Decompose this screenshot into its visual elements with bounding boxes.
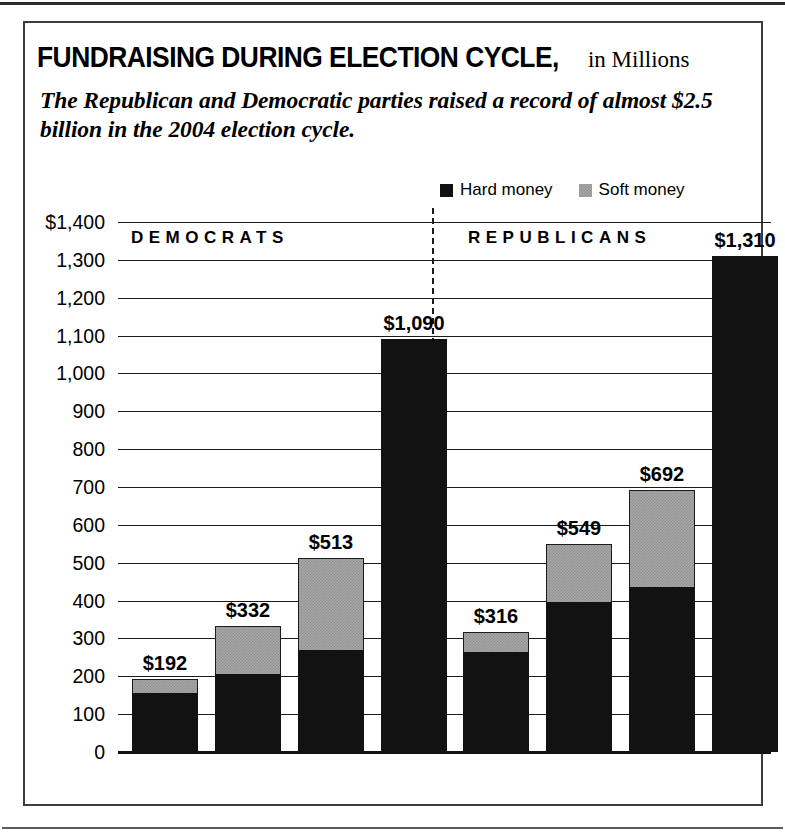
y-axis-tick-label: 300 — [0, 629, 105, 649]
bar — [298, 558, 364, 752]
page-rule-bottom — [2, 827, 783, 829]
y-axis-tick-label: $1,400 — [0, 213, 105, 233]
legend-label-hard-money: Hard money — [460, 180, 553, 200]
bar-value-label: $316 — [436, 605, 556, 628]
bar — [546, 544, 612, 752]
page-title-sub: in Millions — [588, 47, 690, 73]
bar — [629, 490, 695, 752]
page-title: FUNDRAISING DURING ELECTION CYCLE,in Mil… — [37, 40, 737, 74]
square-swatch-icon — [440, 184, 453, 197]
legend-item-soft-money: Soft money — [579, 180, 685, 200]
bar-value-label: $513 — [271, 531, 391, 554]
bar-segment-hard-money — [712, 256, 778, 752]
bar — [215, 626, 281, 752]
y-axis-tick-label: 1,300 — [0, 251, 105, 271]
bar-segment-soft-money — [215, 626, 281, 674]
y-axis-tick-label: 100 — [0, 705, 105, 725]
y-axis-tick-label: 700 — [0, 478, 105, 498]
y-axis-tick-label: 900 — [0, 402, 105, 422]
y-axis-tick-label: 200 — [0, 667, 105, 687]
bar-segment-hard-money — [298, 650, 364, 752]
bar-value-label: $1,310 — [685, 229, 785, 252]
bar-segment-hard-money — [132, 693, 198, 752]
legend-item-hard-money: Hard money — [440, 180, 553, 200]
bar-segment-soft-money — [546, 544, 612, 602]
bar-segment-soft-money — [298, 558, 364, 650]
gridline — [118, 298, 771, 299]
bar-value-label: $332 — [188, 599, 308, 622]
bar-segment-hard-money — [546, 602, 612, 752]
bar-segment-soft-money — [132, 679, 198, 693]
y-axis-tick-label: 1,200 — [0, 289, 105, 309]
y-axis-tick-label: 1,100 — [0, 327, 105, 347]
chart-subtitle: The Republican and Democratic parties ra… — [40, 86, 720, 144]
square-swatch-icon — [579, 184, 592, 197]
bar-value-label: $549 — [519, 517, 639, 540]
bar-value-label: $1,090 — [354, 312, 474, 335]
y-axis-tick-label: 600 — [0, 516, 105, 536]
bar-value-label: $692 — [602, 463, 722, 486]
bar-value-label: $192 — [105, 652, 225, 675]
y-axis-tick-label: 400 — [0, 592, 105, 612]
bar-segment-hard-money — [381, 339, 447, 752]
bar-segment-soft-money — [629, 490, 695, 587]
bar — [132, 679, 198, 752]
y-axis-tick-label: 0 — [0, 743, 105, 763]
page-title-main: FUNDRAISING DURING ELECTION CYCLE, — [37, 40, 559, 74]
legend-label-soft-money: Soft money — [599, 180, 685, 200]
gridline — [118, 260, 771, 261]
y-axis-tick-label: 500 — [0, 554, 105, 574]
page-rule-top — [0, 2, 785, 5]
gridline — [118, 222, 771, 223]
chart-legend: Hard money Soft money — [440, 180, 685, 200]
bar — [712, 256, 778, 752]
chart-plot-area: $1,4001,3001,2001,1001,00090080070060050… — [118, 222, 771, 752]
bar-segment-soft-money — [463, 632, 529, 651]
y-axis-tick-label: 800 — [0, 440, 105, 460]
bar — [463, 632, 529, 752]
bar-segment-hard-money — [629, 587, 695, 752]
gridline — [118, 336, 771, 337]
bar-segment-hard-money — [215, 674, 281, 752]
y-axis-tick-label: 1,000 — [0, 364, 105, 384]
bar — [381, 339, 447, 752]
bar-segment-hard-money — [463, 652, 529, 752]
